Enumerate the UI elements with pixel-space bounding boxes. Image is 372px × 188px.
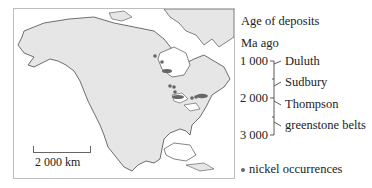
nickel-dot-icon [241, 168, 245, 172]
nickel-legend-label: nickel occurrences [249, 162, 342, 176]
deposit-greenstone-belts: greenstone belts [285, 118, 366, 133]
tick-3000: 3 000 [234, 128, 268, 143]
deposit-thompson: Thompson [285, 97, 338, 112]
tick-1000: 1 000 [234, 54, 268, 69]
nickel-legend: nickel occurrences [241, 162, 342, 177]
deposit-duluth: Duluth [285, 54, 320, 69]
tick-2000: 2 000 [234, 91, 268, 106]
age-axis [0, 0, 372, 188]
deposit-sudbury: Sudbury [285, 75, 327, 90]
